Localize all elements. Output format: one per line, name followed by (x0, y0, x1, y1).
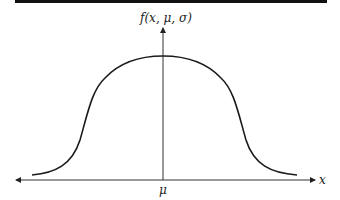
density-curve (32, 56, 297, 175)
mu-label: μ (159, 183, 167, 197)
distribution-diagram: f(x, μ, σ) x μ (0, 0, 340, 200)
x-axis-label: x (319, 173, 326, 187)
y-axis-label: f(x, μ, σ) (139, 11, 192, 25)
